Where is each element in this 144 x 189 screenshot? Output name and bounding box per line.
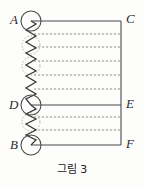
vertex-label-D: D: [9, 98, 18, 111]
spring-zigzag: [26, 21, 36, 145]
vertex-label-E: E: [126, 97, 134, 110]
solid-line-group: [31, 21, 121, 145]
figure-drawing: [0, 0, 144, 189]
ghost-circle-2: [22, 57, 40, 75]
vertex-label-B: B: [10, 138, 18, 151]
figure-container: A C D E B F 그림 3: [0, 0, 144, 189]
dashed-line-group: [34, 34, 121, 130]
vertex-label-F: F: [126, 137, 134, 150]
vertex-label-A: A: [10, 13, 18, 26]
figure-caption: 그림 3: [0, 163, 144, 176]
vertex-label-C: C: [126, 12, 135, 25]
